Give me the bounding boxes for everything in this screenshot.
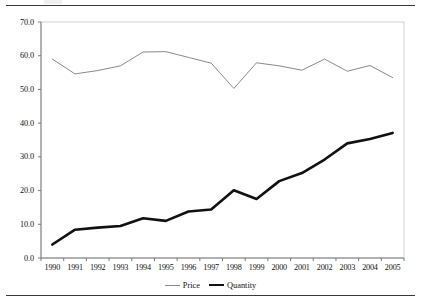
x-axis-tick-label: 2005 (379, 263, 407, 272)
series-line-quantity (52, 133, 392, 245)
y-axis-tick-label: 60.0 (4, 51, 34, 60)
y-axis-tick-label: 70.0 (4, 18, 34, 27)
axes-group (38, 22, 404, 261)
top-horizontal-rule (6, 5, 415, 6)
chart-legend: Price Quantity (0, 278, 421, 292)
legend-label-quantity: Quantity (227, 281, 256, 290)
page-artifact (44, 0, 62, 4)
line-chart: 0.010.020.030.040.050.060.070.0 19901991… (0, 12, 421, 292)
y-axis-tick-label: 10.0 (4, 220, 34, 229)
legend-label-price: Price (183, 281, 200, 290)
y-axis-tick-label: 0.0 (4, 254, 34, 263)
bottom-horizontal-rule (6, 295, 415, 296)
y-axis-tick-label: 50.0 (4, 85, 34, 94)
legend-line-icon-price (165, 285, 180, 286)
legend-line-icon-quantity (209, 284, 224, 286)
y-axis-tick-label: 30.0 (4, 152, 34, 161)
y-axis-tick-label: 40.0 (4, 119, 34, 128)
legend-entry-price: Price (165, 281, 200, 290)
series-group (52, 52, 392, 245)
y-axis-tick-label: 20.0 (4, 186, 34, 195)
plot-border (41, 22, 404, 258)
series-line-price (52, 52, 392, 89)
plot-svg (0, 12, 421, 292)
figure-container: 0.010.020.030.040.050.060.070.0 19901991… (0, 0, 421, 304)
legend-entry-quantity: Quantity (209, 281, 256, 290)
